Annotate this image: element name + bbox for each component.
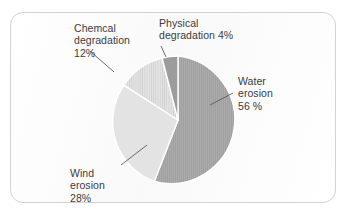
figure-card: Chemcal degradation 12% Physical degrada… [10,12,336,203]
pie-label-water-erosion: Water erosion 56 % [238,75,308,112]
pie-label-physical-degradation: Physical degradation 4% [159,17,255,42]
pie-label-chemical-degradation: Chemcal degradation 12% [74,22,158,59]
pie-label-wind-erosion: Wind erosion 28% [70,167,140,203]
